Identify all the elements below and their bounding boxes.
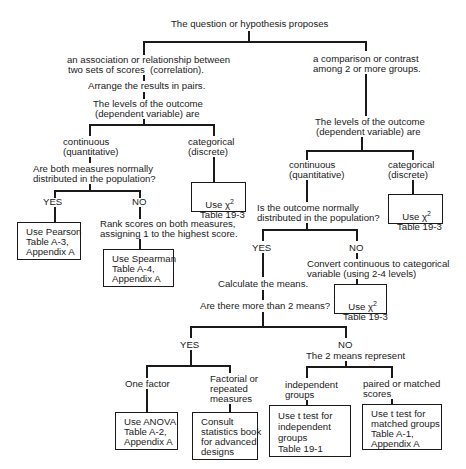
connector [361, 137, 363, 150]
connector [213, 157, 215, 183]
levels-label-right-2: (dependent variable) are [316, 127, 421, 137]
chi-sup: 2 [427, 210, 431, 217]
connector [356, 229, 358, 241]
yes-label-left: YES [43, 197, 62, 207]
ttest-matched-box: Use t test for matched groups Table A-1,… [362, 404, 442, 450]
categorical-label-right-2: (discrete) [388, 170, 428, 180]
rank-label-2: assigning 1 to the highest score. [100, 229, 238, 239]
ttest-independent-box: Use t test for independent groups Table … [269, 405, 351, 457]
no-label-means: NO [338, 340, 352, 350]
comparison-label-2: among 2 or more groups. [313, 64, 421, 74]
connector [146, 365, 230, 367]
connector [262, 229, 358, 231]
chi-table: Table 19-3 [343, 311, 388, 322]
chi-square-box-convert: Use χ2Table 19-3 [334, 284, 387, 314]
chi-sup: 2 [230, 198, 234, 205]
connector [146, 389, 148, 412]
connector [190, 326, 192, 338]
connector [213, 124, 215, 136]
spearman-box: Use Spearman Table A-4, Appendix A [103, 249, 174, 287]
connector [365, 41, 367, 51]
continuous-label-right-2: (quantitative) [289, 170, 344, 180]
connector [306, 180, 308, 202]
connector [412, 180, 414, 194]
no-label-left: NO [132, 197, 146, 207]
one-factor-label: One factor [125, 379, 170, 389]
connector [190, 326, 346, 328]
pearson-box: Use Pearson Table A-3, Appendix A [17, 222, 81, 260]
association-label-2: two sets of scores (correlation). [68, 65, 204, 75]
factorial-label: Factorial or repeated measures [210, 374, 258, 404]
independent-label: independent groups [285, 380, 338, 400]
yes-label-right: YES [252, 243, 271, 253]
connector [143, 41, 366, 43]
normal-question-left-2: distributed in the population? [33, 174, 156, 184]
connector [345, 326, 347, 338]
connector [143, 41, 145, 55]
more-means-question: Are there more than 2 means? [200, 301, 330, 311]
categorical-label-2: (discrete) [188, 147, 228, 157]
connector [89, 124, 91, 136]
connector [262, 253, 264, 277]
levels-label-2: (dependent variable) are [95, 109, 200, 119]
two-means-label: The 2 means represent [306, 351, 405, 361]
connector [306, 366, 308, 378]
connector [306, 366, 392, 368]
chi-table: Table 19-3 [397, 221, 442, 232]
no-label-right: NO [349, 243, 363, 253]
connector [190, 350, 192, 365]
yes-label-means: YES [180, 340, 199, 350]
connector [306, 150, 413, 152]
continuous-label-2: (quantitative) [63, 147, 118, 157]
chi-square-box-right: Use χ2Table 19-3 [388, 194, 443, 224]
arrange-pairs-label: Arrange the results in pairs. [88, 81, 205, 91]
convert-label-2: variable (using 2-4 levels) [307, 269, 416, 279]
connector [229, 365, 231, 373]
chi-square-box-left: Use χ2Table 19-3 [191, 182, 246, 212]
connector [229, 404, 231, 412]
connector [262, 229, 264, 241]
connector [262, 290, 264, 300]
connector [139, 239, 141, 249]
chi-sup: 2 [373, 300, 377, 307]
normal-question-right-2: distributed in the population? [257, 213, 380, 223]
consult-box: Consult statistics book for advanced des… [192, 412, 258, 460]
connector [365, 74, 367, 116]
connector [54, 207, 56, 222]
connector [89, 124, 214, 126]
connector [262, 312, 264, 326]
connector [54, 190, 140, 192]
paired-label: paired or matched scores [363, 379, 440, 399]
connector [146, 365, 148, 378]
root-question: The question or hypothesis proposes [171, 19, 328, 29]
calculate-means-label: Calculate the means. [218, 279, 308, 289]
anova-box: Use ANOVA Table A-2, Appendix A [115, 412, 178, 450]
connector [391, 366, 393, 378]
